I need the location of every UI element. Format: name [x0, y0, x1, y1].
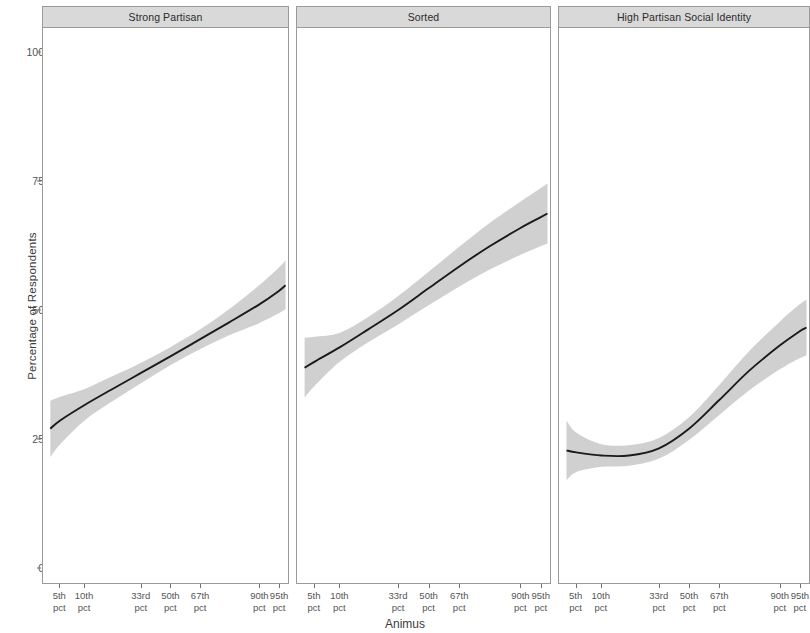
- facet-panel-plot-area: [296, 28, 551, 584]
- facet-panel-title: High Partisan Social Identity: [558, 6, 810, 28]
- y-tick-mark: [37, 310, 41, 311]
- x-tick-label: 50thpct: [680, 590, 699, 613]
- x-tick-label: 95thpct: [270, 590, 289, 613]
- facet-panel-title: Strong Partisan: [42, 6, 289, 28]
- x-tick-mark: [719, 584, 720, 588]
- x-tick-label: 95thpct: [532, 590, 551, 613]
- x-tick-mark: [541, 584, 542, 588]
- facet-panel: Sorted: [296, 6, 551, 584]
- x-axis-ticks: 5thpct10thpct33rdpct50thpct67thpct90thpc…: [296, 584, 551, 630]
- x-tick-label: 90thpct: [250, 590, 269, 613]
- confidence-band: [567, 300, 807, 481]
- y-tick-mark: [37, 439, 41, 440]
- x-tick-mark: [398, 584, 399, 588]
- x-tick-mark: [170, 584, 171, 588]
- x-tick-mark: [259, 584, 260, 588]
- x-tick-label: 90thpct: [771, 590, 790, 613]
- x-tick-mark: [689, 584, 690, 588]
- facet-panel-title: Sorted: [296, 6, 551, 28]
- x-axis-ticks: 5thpct10thpct33rdpct50thpct67thpct90thpc…: [42, 584, 289, 630]
- x-axis-ticks: 5thpct10thpct33rdpct50thpct67thpct90thpc…: [558, 584, 810, 630]
- facet-panel: Strong Partisan: [42, 6, 289, 584]
- x-tick-mark: [659, 584, 660, 588]
- y-axis: 0255075100: [0, 0, 44, 633]
- x-tick-label: 5thpct: [53, 590, 66, 613]
- x-tick-label: 50thpct: [161, 590, 180, 613]
- x-tick-label: 50thpct: [419, 590, 438, 613]
- x-tick-label: 33rdpct: [131, 590, 150, 613]
- x-tick-label: 67thpct: [710, 590, 729, 613]
- y-tick-mark: [37, 181, 41, 182]
- y-tick-mark: [37, 568, 41, 569]
- x-tick-label: 33rdpct: [649, 590, 668, 613]
- x-tick-label: 10thpct: [330, 590, 349, 613]
- x-tick-label: 90thpct: [511, 590, 530, 613]
- x-tick-mark: [780, 584, 781, 588]
- facet-line-chart: Percentage of Respondents 0255075100 Ani…: [0, 0, 810, 633]
- facet-panel-plot-area: [558, 28, 810, 584]
- x-tick-mark: [279, 584, 280, 588]
- x-tick-label: 10thpct: [75, 590, 94, 613]
- x-tick-label: 5thpct: [307, 590, 320, 613]
- facet-panel-plot-area: [42, 28, 289, 584]
- x-tick-mark: [429, 584, 430, 588]
- x-tick-label: 10thpct: [592, 590, 611, 613]
- x-tick-mark: [800, 584, 801, 588]
- x-tick-mark: [520, 584, 521, 588]
- x-tick-mark: [59, 584, 60, 588]
- x-tick-mark: [576, 584, 577, 588]
- x-tick-mark: [200, 584, 201, 588]
- x-tick-label: 67thpct: [450, 590, 469, 613]
- facet-panel: High Partisan Social Identity: [558, 6, 810, 584]
- x-tick-label: 33rdpct: [388, 590, 407, 613]
- y-tick-mark: [37, 52, 41, 53]
- x-tick-mark: [84, 584, 85, 588]
- x-tick-mark: [459, 584, 460, 588]
- x-tick-mark: [339, 584, 340, 588]
- x-tick-mark: [314, 584, 315, 588]
- x-tick-label: 67thpct: [191, 590, 210, 613]
- x-tick-label: 5thpct: [569, 590, 582, 613]
- x-tick-label: 95thpct: [791, 590, 810, 613]
- x-tick-mark: [141, 584, 142, 588]
- x-tick-mark: [601, 584, 602, 588]
